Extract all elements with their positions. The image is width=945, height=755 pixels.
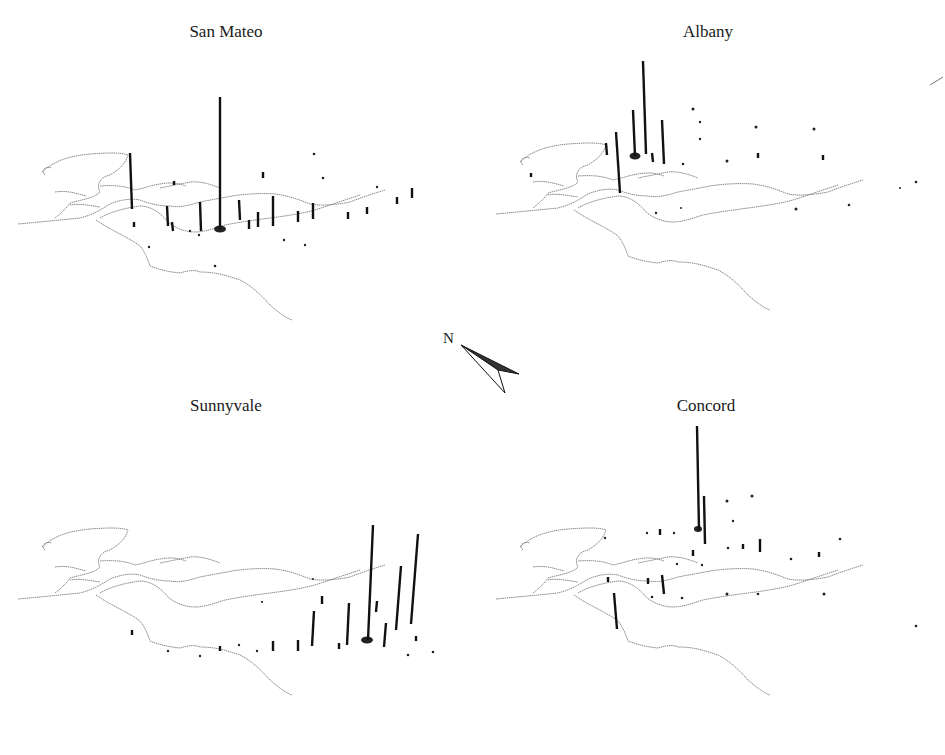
- compass-north-label: N: [443, 330, 454, 347]
- bay-area-maps: [0, 0, 945, 755]
- map-albany: [496, 143, 863, 310]
- map-sunnyvale: [18, 528, 385, 695]
- north-arrow-icon: [461, 345, 519, 393]
- map-san-mateo: [18, 97, 412, 320]
- map-concord: [496, 528, 863, 695]
